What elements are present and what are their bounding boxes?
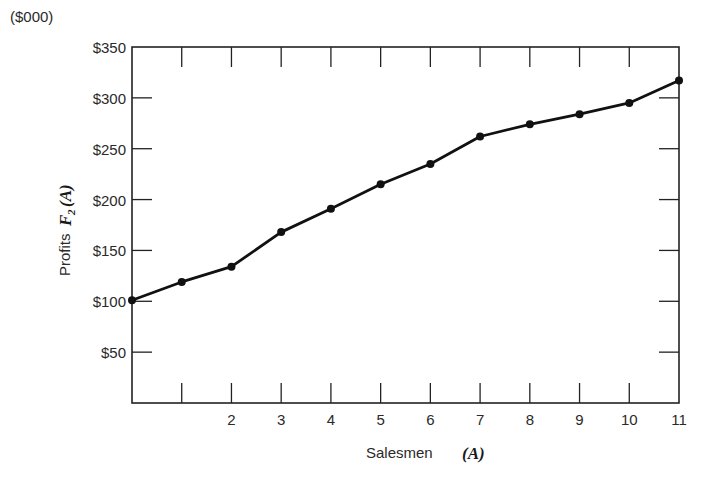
y-tick-label: $250 [93, 141, 126, 158]
x-axis-title: Salesmen [366, 444, 433, 461]
data-point-marker [227, 263, 235, 271]
y-axis-title: Profits [56, 233, 73, 276]
x-tick-label: 11 [671, 411, 687, 428]
data-point-marker [128, 296, 136, 304]
y-axis-tick-labels: $50$100$150$200$250$300$350 [93, 39, 126, 361]
x-axis-variable: (A) [462, 444, 485, 463]
plot-border [132, 47, 679, 403]
profit-series [128, 77, 683, 305]
data-point-marker [426, 160, 434, 168]
y-tick-label: $350 [93, 39, 126, 56]
data-point-marker [277, 228, 285, 236]
x-tick-label: 10 [621, 411, 638, 428]
x-tick-label: 5 [376, 411, 384, 428]
y-axis-title-group: Profits F 2 (A) [56, 184, 77, 276]
data-point-marker [476, 133, 484, 141]
y-axis-argument: (A) [56, 184, 75, 207]
plot-frame [132, 47, 679, 403]
y-tick-label: $300 [93, 90, 126, 107]
profits-line-chart: $50$100$150$200$250$300$350 234567891011… [0, 0, 701, 482]
x-tick-label: 7 [476, 411, 484, 428]
data-point-marker [526, 120, 534, 128]
data-point-marker [625, 99, 633, 107]
y-tick-label: $50 [101, 344, 126, 361]
x-tick-label: 6 [426, 411, 434, 428]
axis-ticks [132, 47, 679, 403]
data-point-marker [675, 77, 683, 85]
data-point-marker [178, 278, 186, 286]
y-axis-subscript: 2 [65, 209, 77, 216]
x-tick-label: 8 [526, 411, 534, 428]
y-tick-label: $100 [93, 293, 126, 310]
x-axis-tick-labels: 234567891011 [227, 411, 687, 428]
y-tick-label: $200 [93, 192, 126, 209]
data-point-marker [377, 180, 385, 188]
x-tick-label: 9 [575, 411, 583, 428]
profit-line [132, 81, 679, 301]
x-tick-label: 2 [227, 411, 235, 428]
unit-label: ($000) [10, 8, 53, 25]
x-tick-label: 3 [277, 411, 285, 428]
y-tick-label: $150 [93, 242, 126, 259]
data-point-marker [576, 110, 584, 118]
data-point-marker [327, 205, 335, 213]
x-tick-label: 4 [327, 411, 335, 428]
